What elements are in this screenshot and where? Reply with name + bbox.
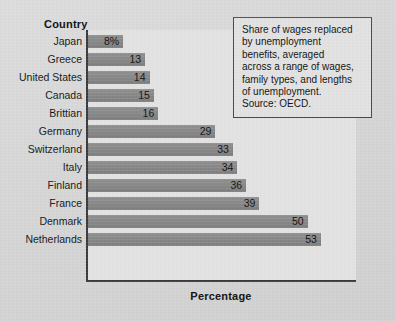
bar-category-label: Brittian: [49, 107, 82, 120]
bar-container: 13: [88, 53, 145, 66]
bar-value-label: 16: [143, 107, 155, 120]
annotation-text: Share of wages replaced by unemployment …: [242, 24, 364, 111]
bar-value-label: 29: [200, 125, 212, 138]
bar-row: Netherlands53: [0, 232, 396, 250]
bar-container: 16: [88, 107, 158, 120]
bar-row: Italy34: [0, 160, 396, 178]
bar-container: 33: [88, 143, 233, 156]
bar: 14: [88, 71, 150, 84]
bar: 50: [88, 215, 308, 228]
bar-container: 39: [88, 197, 259, 210]
bar-value-label: 50: [292, 215, 304, 228]
bar: 53: [88, 233, 321, 246]
bar-category-label: Italy: [63, 161, 82, 174]
bar: 36: [88, 179, 246, 192]
annotation-textbox: Share of wages replaced by unemployment …: [233, 17, 372, 118]
bar-container: 53: [88, 233, 321, 246]
bar-value-label: 8%: [104, 35, 119, 48]
bar-category-label: Netherlands: [25, 233, 82, 246]
category-axis-title: Country: [44, 18, 88, 30]
bar-container: 15: [88, 89, 154, 102]
bar: 15: [88, 89, 154, 102]
bar: 34: [88, 161, 237, 174]
bar-row: France39: [0, 196, 396, 214]
bar: 33: [88, 143, 233, 156]
bar-value-label: 15: [138, 89, 150, 102]
bar-category-label: Denmark: [39, 215, 82, 228]
bar: 8%: [88, 35, 123, 48]
bar-row: Denmark50: [0, 214, 396, 232]
bar-container: 29: [88, 125, 215, 138]
bar-container: 14: [88, 71, 150, 84]
bar-value-label: 14: [134, 71, 146, 84]
bar-value-label: 39: [244, 197, 256, 210]
bar-category-label: Japan: [53, 35, 82, 48]
bar-container: 8%: [88, 35, 123, 48]
bar-category-label: Germany: [39, 125, 82, 138]
chart-figure: Country Japan8%Greece13United States14Ca…: [0, 0, 396, 321]
bar-container: 50: [88, 215, 308, 228]
bar: 39: [88, 197, 259, 210]
bar-value-label: 34: [222, 161, 234, 174]
bar-category-label: Finland: [48, 179, 82, 192]
bar-value-label: 13: [129, 53, 141, 66]
bar-value-label: 33: [217, 143, 229, 156]
bar-row: Switzerland33: [0, 142, 396, 160]
bar-row: Germany29: [0, 124, 396, 142]
bar-container: 36: [88, 179, 246, 192]
bar: 16: [88, 107, 158, 120]
bar-category-label: Greece: [48, 53, 82, 66]
bar-category-label: United States: [19, 71, 82, 84]
bar: 29: [88, 125, 215, 138]
bar-container: 34: [88, 161, 237, 174]
bar-value-label: 36: [230, 179, 242, 192]
bar-value-label: 53: [305, 233, 317, 246]
bar: 13: [88, 53, 145, 66]
value-axis-title: Percentage: [86, 290, 356, 302]
bar-row: Finland36: [0, 178, 396, 196]
bar-category-label: France: [49, 197, 82, 210]
bar-category-label: Switzerland: [28, 143, 82, 156]
bar-category-label: Canada: [45, 89, 82, 102]
